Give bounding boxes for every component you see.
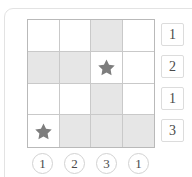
grid-cell-r2c1[interactable]: [28, 52, 60, 84]
column-clue-1: 1: [32, 153, 53, 174]
row-clue-3: 1: [161, 87, 184, 110]
grid-cell-r3c1[interactable]: [28, 84, 60, 116]
star-icon: [34, 122, 53, 141]
grid-cell-r4c3[interactable]: [91, 115, 123, 147]
puzzle-grid[interactable]: [27, 19, 155, 148]
column-clue-2: 2: [64, 153, 85, 174]
grid-cell-r2c4[interactable]: [123, 52, 155, 84]
column-clue-4: 1: [128, 153, 149, 174]
row-clue-1: 1: [161, 23, 184, 46]
grid-cell-r1c1[interactable]: [28, 20, 60, 52]
puzzle-grid-container: [27, 19, 155, 148]
grid-cell-r1c4[interactable]: [123, 20, 155, 52]
row-clue-2: 2: [161, 55, 184, 78]
grid-cell-r3c3[interactable]: [91, 84, 123, 116]
row-clue-4: 3: [161, 119, 184, 142]
grid-cell-r1c2[interactable]: [60, 20, 92, 52]
grid-cell-r2c2[interactable]: [60, 52, 92, 84]
row-clue-labels: 1213: [161, 19, 185, 148]
grid-cell-r1c3[interactable]: [91, 20, 123, 52]
grid-cell-r2c3[interactable]: [91, 52, 123, 84]
grid-cell-r3c4[interactable]: [123, 84, 155, 116]
grid-cell-r3c2[interactable]: [60, 84, 92, 116]
puzzle-screen: 1213 1231: [0, 0, 192, 177]
column-clue-3: 3: [96, 153, 117, 174]
grid-cell-r4c1[interactable]: [28, 115, 60, 147]
grid-cell-r4c2[interactable]: [60, 115, 92, 147]
column-clue-labels: 1231: [27, 153, 155, 175]
star-icon: [97, 58, 116, 77]
grid-cell-r4c4[interactable]: [123, 115, 155, 147]
